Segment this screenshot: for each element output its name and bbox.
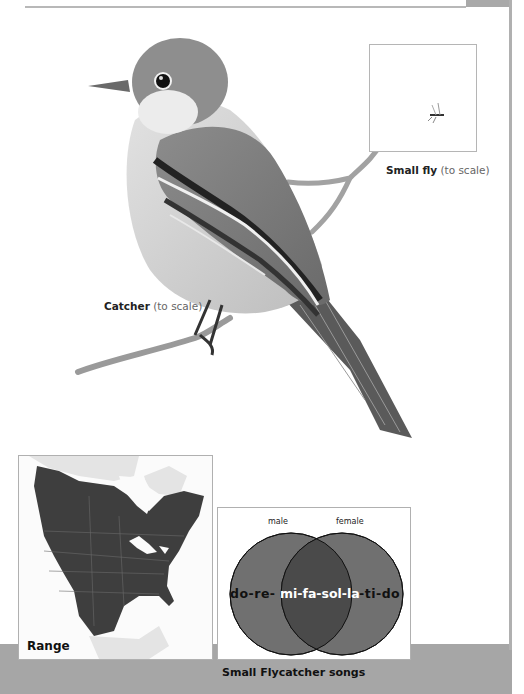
venn-caption: Small Flycatcher songs	[222, 666, 365, 679]
fly-caption-name: Small fly	[386, 164, 437, 176]
fly-panel	[369, 44, 477, 152]
venn-diagram	[218, 508, 410, 659]
range-map-panel: Range	[18, 455, 213, 660]
venn-overlap-text: mi-fa-sol-la	[280, 586, 360, 601]
bird-caption: Catcher (to scale)	[104, 300, 202, 312]
venn-panel: male female do-re- mi-fa-sol-la -ti-do	[217, 507, 411, 660]
top-rule	[25, 6, 466, 8]
venn-male-only-text: do-re-	[230, 586, 276, 601]
venn-female-only-text: -ti-do	[359, 586, 400, 601]
venn-female-label: female	[336, 517, 364, 526]
range-label: Range	[27, 639, 70, 653]
venn-male-label: male	[268, 517, 288, 526]
page-margin	[512, 0, 524, 694]
fly-icon	[370, 45, 476, 151]
corner-tab	[466, 0, 511, 7]
bird-caption-scale: (to scale)	[150, 300, 202, 312]
bird-caption-name: Catcher	[104, 300, 150, 312]
north-america-map-icon	[19, 456, 212, 659]
fly-caption: Small fly (to scale)	[386, 164, 490, 176]
fly-caption-scale: (to scale)	[437, 164, 489, 176]
